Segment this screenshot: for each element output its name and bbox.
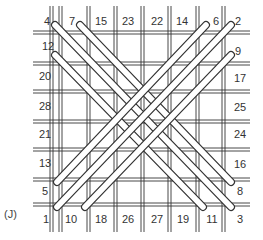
diagonal-rods — [0, 0, 263, 240]
weaving-diagram: 4715232214621220282113591725241681101826… — [0, 0, 263, 240]
figure-label: (J) — [4, 208, 17, 220]
